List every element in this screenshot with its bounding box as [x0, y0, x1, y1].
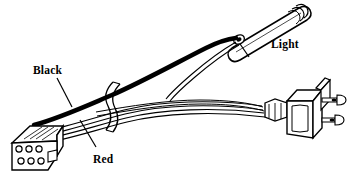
- wiring-diagram: Black Red Light: [0, 0, 352, 175]
- label-light-group: Light: [271, 38, 299, 51]
- plug-blade-upper-hole: [332, 98, 337, 101]
- connector-pin-6: [38, 158, 44, 164]
- connector-pin-4: [18, 158, 24, 164]
- plug-blade-lower-hole: [330, 118, 335, 121]
- light-label: Light: [271, 38, 299, 51]
- red-label: Red: [93, 153, 114, 165]
- wiring-diagram-canvas: Black Red Light: [0, 0, 352, 175]
- plug-blade-lower-tip: [335, 115, 344, 125]
- plug-blade-upper-tip: [337, 95, 346, 105]
- connector-pin-1: [16, 146, 22, 152]
- connector-latch-tab: [48, 150, 57, 162]
- connector-pin-2: [26, 146, 32, 152]
- plug-body-inset: [292, 105, 308, 132]
- connector-pin-5: [28, 158, 34, 164]
- black-label: Black: [33, 64, 63, 76]
- plug-strain-relief: [265, 99, 287, 121]
- connector-pin-3: [36, 146, 42, 152]
